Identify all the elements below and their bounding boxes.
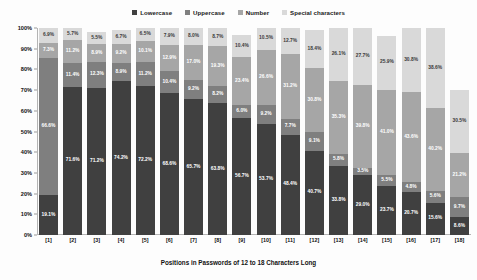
bar-segment[interactable]: 30.8%	[305, 68, 324, 132]
bar-column[interactable]: 5.5%8.9%12.3%71.2%	[87, 28, 106, 235]
bar-segment[interactable]: 7.3%	[39, 43, 58, 58]
bar-segment[interactable]: 26.1%	[329, 28, 348, 81]
bar-segment[interactable]: 38.6%	[426, 28, 445, 108]
bar-column[interactable]: 18.4%30.8%9.1%40.7%	[305, 28, 324, 235]
bar-segment[interactable]: 53.7%	[257, 124, 276, 235]
bar-segment[interactable]: 56.7%	[232, 118, 251, 235]
bar-segment[interactable]: 9.2%	[112, 44, 131, 63]
bar-column[interactable]: 5.7%11.2%11.4%71.6%	[63, 28, 82, 235]
bar-column[interactable]: 12.7%31.2%7.7%48.4%	[281, 28, 300, 235]
bar-segment[interactable]: 6.5%	[136, 28, 155, 41]
bar-value-label: 5.6%	[430, 194, 441, 199]
bar-segment[interactable]: 9.2%	[257, 105, 276, 124]
bar-segment[interactable]: 48.4%	[281, 135, 300, 235]
bar-column[interactable]: 38.6%40.2%5.6%15.6%	[426, 28, 445, 235]
bar-segment[interactable]: 10.5%	[257, 28, 276, 50]
bar-segment[interactable]: 4.8%	[402, 182, 421, 192]
bar-segment[interactable]: 72.2%	[136, 86, 155, 235]
bar-value-label: 8.9%	[115, 70, 126, 75]
bar-segment[interactable]: 19.3%	[208, 46, 227, 86]
bar-column[interactable]: 10.5%26.6%9.2%53.7%	[257, 28, 276, 235]
bar-segment[interactable]: 15.6%	[426, 203, 445, 235]
bar-column[interactable]: 8.7%19.3%8.2%63.8%	[208, 28, 227, 235]
bar-segment[interactable]: 5.5%	[377, 175, 396, 186]
legend-item[interactable]: Lowercase	[132, 9, 172, 16]
bar-segment[interactable]: 43.6%	[402, 92, 421, 182]
bar-value-label: 12.7%	[283, 39, 297, 44]
bar-segment[interactable]: 8.9%	[87, 44, 106, 62]
bar-segment[interactable]: 74.2%	[112, 81, 131, 235]
bar-segment[interactable]: 19.1%	[39, 195, 58, 235]
bar-column[interactable]: 30.8%43.6%4.8%20.7%	[402, 28, 421, 235]
bar-segment[interactable]: 35.3%	[329, 81, 348, 153]
bar-segment[interactable]: 8.6%	[450, 217, 469, 235]
bar-segment[interactable]: 8.9%	[112, 63, 131, 81]
bar-segment[interactable]: 6.9%	[39, 28, 58, 42]
bar-segment[interactable]: 7.9%	[160, 28, 179, 44]
bar-segment[interactable]: 8.7%	[208, 28, 227, 46]
bar-column[interactable]: 6.7%9.2%8.9%74.2%	[112, 28, 131, 235]
bar-column[interactable]: 30.5%21.2%9.7%8.6%	[450, 28, 469, 235]
legend-item[interactable]: Special characters	[282, 9, 345, 16]
bar-segment[interactable]: 12.3%	[87, 62, 106, 87]
bar-segment[interactable]: 23.7%	[377, 186, 396, 235]
bar-value-label: 10.4%	[162, 80, 176, 85]
bar-segment[interactable]: 10.4%	[232, 35, 251, 57]
bar-segment[interactable]: 11.2%	[63, 40, 82, 63]
x-axis-title: Positions in Passwords of 12 to 18 Chara…	[0, 259, 477, 266]
bar-segment[interactable]: 11.2%	[136, 62, 155, 85]
bar-segment[interactable]: 6.0%	[232, 105, 251, 117]
bar-segment[interactable]: 9.2%	[184, 80, 203, 99]
bar-segment[interactable]: 29.0%	[353, 175, 372, 235]
bar-segment[interactable]: 10.1%	[136, 41, 155, 62]
bar-column[interactable]: 27.7%39.8%3.5%29.0%	[353, 28, 372, 235]
bar-segment[interactable]: 30.8%	[402, 28, 421, 92]
bar-segment[interactable]: 65.7%	[184, 99, 203, 235]
bar-segment[interactable]: 3.5%	[353, 168, 372, 175]
legend-item[interactable]: Uppercase	[185, 9, 225, 16]
bar-segment[interactable]: 6.7%	[112, 30, 131, 44]
bar-segment[interactable]: 9.7%	[450, 197, 469, 217]
bar-segment[interactable]: 17.0%	[184, 45, 203, 80]
bar-segment[interactable]: 7.7%	[281, 119, 300, 135]
bar-segment[interactable]: 10.4%	[160, 71, 179, 93]
bar-segment[interactable]: 9.1%	[305, 132, 324, 151]
bar-segment[interactable]: 18.4%	[305, 30, 324, 68]
bar-column[interactable]: 6.9%7.3%66.6%19.1%	[39, 28, 58, 235]
bar-segment[interactable]: 21.2%	[450, 153, 469, 197]
bar-segment[interactable]: 41.0%	[377, 90, 396, 175]
bar-segment[interactable]: 26.6%	[257, 50, 276, 105]
bar-segment[interactable]: 31.2%	[281, 54, 300, 119]
bar-segment[interactable]: 20.7%	[402, 192, 421, 235]
bar-column[interactable]: 10.4%23.4%6.0%56.7%	[232, 28, 251, 235]
bar-segment[interactable]: 5.5%	[87, 32, 106, 43]
bar-segment[interactable]: 5.6%	[426, 191, 445, 203]
bar-column[interactable]: 26.1%35.3%5.8%33.8%	[329, 28, 348, 235]
bar-segment[interactable]: 71.2%	[87, 88, 106, 235]
bar-column[interactable]: 7.9%12.9%10.4%68.6%	[160, 28, 179, 235]
bar-segment[interactable]: 39.8%	[353, 85, 372, 167]
bar-segment[interactable]: 63.8%	[208, 103, 227, 235]
bar-segment[interactable]: 30.5%	[450, 90, 469, 153]
bar-segment[interactable]: 8.0%	[184, 28, 203, 45]
bar-segment[interactable]: 71.6%	[63, 87, 82, 235]
bar-segment[interactable]: 33.8%	[329, 166, 348, 235]
bar-segment[interactable]: 12.9%	[160, 45, 179, 72]
bar-segment[interactable]: 40.7%	[305, 151, 324, 235]
bar-column[interactable]: 25.9%41.0%5.5%23.7%	[377, 28, 396, 235]
bar-column[interactable]: 8.0%17.0%9.2%65.7%	[184, 28, 203, 235]
bar-segment[interactable]: 5.8%	[329, 154, 348, 166]
bar-segment[interactable]: 8.2%	[208, 86, 227, 103]
bar-segment[interactable]: 68.6%	[160, 93, 179, 235]
bar-segment[interactable]: 27.7%	[353, 28, 372, 85]
bar-segment[interactable]: 66.6%	[39, 58, 58, 196]
bar-value-label: 6.9%	[43, 33, 54, 38]
bar-segment[interactable]: 25.9%	[377, 36, 396, 90]
bar-segment[interactable]: 12.7%	[281, 28, 300, 54]
bar-segment[interactable]: 40.2%	[426, 108, 445, 191]
legend-item[interactable]: Number	[238, 9, 269, 16]
bar-segment[interactable]: 23.4%	[232, 57, 251, 105]
bar-segment[interactable]: 11.4%	[63, 63, 82, 87]
bar-segment[interactable]: 5.7%	[63, 28, 82, 40]
bar-column[interactable]: 6.5%10.1%11.2%72.2%	[136, 28, 155, 235]
